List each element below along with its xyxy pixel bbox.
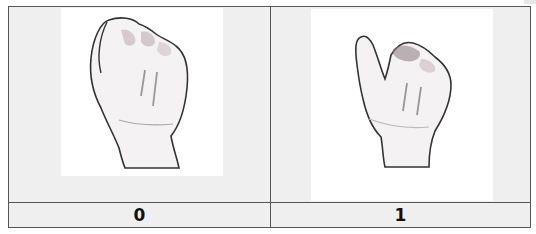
label-cell-0: 0 (9, 203, 271, 227)
thumb-raised-fist-hand-sign-icon (311, 9, 493, 201)
corner-mark (524, 0, 536, 4)
label-1: 1 (395, 205, 407, 225)
label-0: 0 (134, 205, 146, 225)
hand-sign-table: 0 1 (8, 6, 531, 228)
image-cell-0 (9, 7, 271, 203)
closed-fist-hand-sign-icon (61, 8, 223, 176)
image-cell-1 (271, 7, 530, 203)
label-cell-1: 1 (271, 203, 530, 227)
